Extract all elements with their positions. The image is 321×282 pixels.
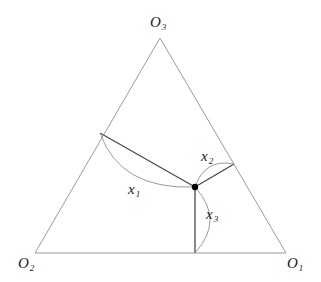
label-O1: O1 <box>287 255 303 273</box>
label-O2: O2 <box>18 255 35 273</box>
edge-O3-O1 <box>160 38 286 253</box>
label-x1: x1 <box>127 181 140 199</box>
label-O3: O3 <box>150 14 167 32</box>
ternary-triangle-diagram: O3 O2 O1 x1 x2 x3 <box>0 0 321 282</box>
edge-O2-O3 <box>35 38 160 253</box>
label-x2: x2 <box>200 148 214 166</box>
interior-point <box>192 184 198 190</box>
label-x3: x3 <box>205 206 219 224</box>
perpendicular-x1 <box>100 133 195 187</box>
